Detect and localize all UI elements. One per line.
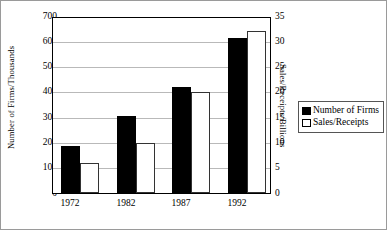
chart-figure: Number of Firms/Thousands Sales/Receipts… <box>0 0 387 230</box>
right-tick-5: 5 <box>275 163 280 173</box>
x-tick-1982: 1982 <box>98 199 154 209</box>
right-tick-10: 10 <box>275 138 285 148</box>
bar-sales-1987[interactable] <box>191 92 210 193</box>
legend-item-sales-receipts[interactable]: Sales/Receipts <box>302 117 379 129</box>
legend-label-sales-receipts: Sales/Receipts <box>313 117 368 129</box>
bar-firms-1992[interactable] <box>228 38 247 193</box>
bar-sales-1982[interactable] <box>136 143 155 193</box>
right-tick-35: 35 <box>275 12 285 22</box>
bar-sales-1972[interactable] <box>80 163 99 193</box>
right-tick-0: 0 <box>275 189 280 199</box>
x-tick-1972: 1972 <box>42 199 98 209</box>
x-tick-1987: 1987 <box>153 199 209 209</box>
bar-firms-1972[interactable] <box>61 146 80 193</box>
legend-swatch-firms-icon <box>302 107 311 115</box>
bar-firms-1987[interactable] <box>172 87 191 193</box>
legend-label-number-of-firms: Number of Firms <box>313 105 379 117</box>
left-axis-title: Number of Firms/Thousands <box>7 1 16 194</box>
bar-group-1992 <box>228 18 266 193</box>
right-tick-30: 30 <box>275 37 285 47</box>
bar-group-1987 <box>172 18 210 193</box>
bar-group-1972 <box>61 18 99 193</box>
bar-sales-1992[interactable] <box>247 31 266 193</box>
legend-item-number-of-firms[interactable]: Number of Firms <box>302 105 379 117</box>
chart-legend: Number of Firms Sales/Receipts <box>298 101 384 133</box>
right-tick-25: 25 <box>275 62 285 72</box>
right-tick-15: 15 <box>275 113 285 123</box>
legend-swatch-sales-icon <box>302 119 311 127</box>
bar-group-1982 <box>117 18 155 193</box>
x-tick-1992: 1992 <box>209 199 265 209</box>
right-tick-20: 20 <box>275 87 285 97</box>
bar-firms-1982[interactable] <box>117 116 136 193</box>
plot-area <box>52 17 271 194</box>
